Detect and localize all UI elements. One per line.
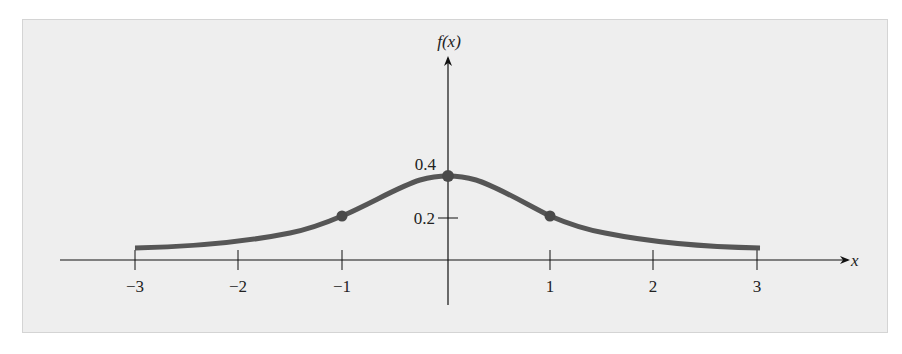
x-tick-label: 1 (546, 277, 555, 296)
chart-svg: −3 −2 −1 1 2 3 0.2 0.4 f(x) x (0, 0, 902, 354)
point-neg1 (337, 211, 348, 222)
y-tick-label: 0.4 (415, 155, 437, 174)
x-tick-label: 2 (649, 277, 658, 296)
y-axis-label: f(x) (437, 32, 461, 51)
x-tick-label: −1 (333, 277, 351, 296)
point-1 (545, 211, 556, 222)
x-tick-label: 3 (753, 277, 762, 296)
x-tick-label: −2 (229, 277, 247, 296)
x-axis-label: x (850, 251, 859, 270)
point-0 (442, 170, 454, 182)
x-tick-label: −3 (126, 277, 144, 296)
y-tick-label: 0.2 (414, 209, 435, 228)
